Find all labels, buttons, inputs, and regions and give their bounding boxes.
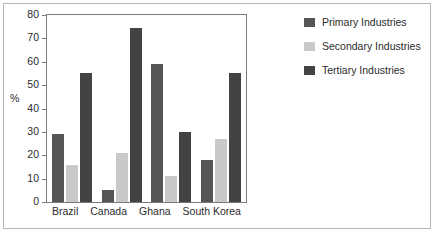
bar-group — [52, 15, 92, 202]
plot-area: 01020304050607080 — [46, 14, 247, 203]
y-tick-mark — [42, 109, 46, 110]
y-tick-80: 80 — [8, 15, 46, 16]
legend-item[interactable]: Secondary Industries — [304, 40, 426, 52]
y-tick-40: 40 — [8, 109, 46, 110]
x-axis-label: South Korea — [183, 205, 241, 217]
y-tick-label: 0 — [33, 195, 39, 208]
y-tick-label: 50 — [27, 78, 39, 91]
y-tick-30: 30 — [8, 132, 46, 133]
y-tick-mark — [42, 85, 46, 86]
bar — [66, 165, 78, 202]
x-axis-labels: BrazilCanadaGhanaSouth Korea — [46, 205, 247, 217]
y-tick-label: 60 — [27, 55, 39, 68]
bar — [201, 160, 213, 202]
bar — [229, 73, 241, 202]
bar-group — [201, 15, 241, 202]
chart-legend: Primary IndustriesSecondary IndustriesTe… — [304, 16, 426, 88]
y-tick-mark — [42, 155, 46, 156]
y-tick-50: 50 — [8, 85, 46, 86]
bar-chart-figure: % 01020304050607080 BrazilCanadaGhanaSou… — [0, 0, 434, 234]
bar — [116, 153, 128, 202]
legend-swatch-icon — [304, 42, 315, 51]
legend-swatch-icon — [304, 66, 315, 75]
legend-label: Primary Industries — [322, 16, 407, 28]
y-tick-label: 80 — [27, 8, 39, 21]
y-tick-label: 30 — [27, 125, 39, 138]
y-tick-mark — [42, 202, 46, 203]
x-axis-label: Ghana — [139, 205, 171, 217]
x-axis-label: Canada — [90, 205, 127, 217]
legend-item[interactable]: Primary Industries — [304, 16, 426, 28]
bar — [179, 132, 191, 202]
bar — [80, 73, 92, 202]
legend-swatch-icon — [304, 18, 315, 27]
y-tick-label: 10 — [27, 172, 39, 185]
bar-group — [102, 15, 142, 202]
bar-groups — [47, 15, 246, 202]
legend-item[interactable]: Tertiary Industries — [304, 64, 426, 76]
y-tick-70: 70 — [8, 38, 46, 39]
bar — [130, 28, 142, 202]
y-tick-mark — [42, 132, 46, 133]
y-tick-0: 0 — [8, 202, 46, 203]
y-tick-20: 20 — [8, 155, 46, 156]
y-axis-label: % — [10, 92, 19, 104]
y-tick-mark — [42, 62, 46, 63]
y-tick-60: 60 — [8, 62, 46, 63]
bar-group — [151, 15, 191, 202]
bar — [151, 64, 163, 202]
x-axis-label: Brazil — [52, 205, 78, 217]
bar — [165, 176, 177, 202]
legend-label: Tertiary Industries — [322, 64, 405, 76]
bar — [215, 139, 227, 202]
y-tick-mark — [42, 38, 46, 39]
y-tick-label: 70 — [27, 31, 39, 44]
y-tick-10: 10 — [8, 179, 46, 180]
y-tick-mark — [42, 179, 46, 180]
y-tick-label: 20 — [27, 148, 39, 161]
y-tick-mark — [42, 15, 46, 16]
bar — [52, 134, 64, 202]
bar — [102, 190, 114, 202]
y-tick-label: 40 — [27, 102, 39, 115]
legend-label: Secondary Industries — [322, 40, 421, 52]
